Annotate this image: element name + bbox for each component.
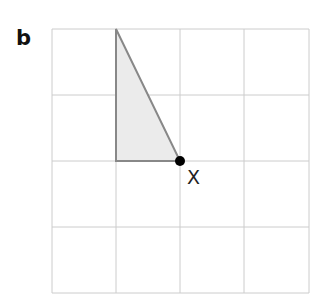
point-label: X [187,166,200,188]
point-x [175,156,185,166]
grid-diagram [0,0,323,302]
